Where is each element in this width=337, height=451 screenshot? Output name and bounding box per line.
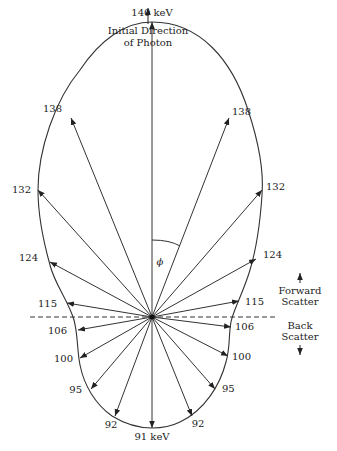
energy-envelope-curve <box>38 22 262 428</box>
scatter-arrow <box>71 118 152 317</box>
scatter-arrow <box>152 317 192 416</box>
phi-angle-arc <box>152 240 180 246</box>
scatter-arrow <box>152 317 215 389</box>
energy-label: 132 <box>12 184 31 195</box>
energy-label: 138 <box>232 106 251 117</box>
title-line1: Initial Direction <box>108 25 189 36</box>
scatter-arrow <box>152 317 231 327</box>
energy-label: 115 <box>38 298 57 309</box>
energy-label: 115 <box>245 296 264 307</box>
scatter-arrow <box>91 317 152 389</box>
energy-label: 106 <box>235 321 254 332</box>
energy-label: 132 <box>266 181 285 192</box>
energy-label: 124 <box>19 252 38 263</box>
energy-label: 106 <box>48 325 67 336</box>
energy-label: 91 keV <box>134 431 170 442</box>
compton-scatter-diagram: ϕ 140 keV1381381321321241241151151061061… <box>0 0 337 451</box>
energy-label: 124 <box>263 249 282 260</box>
scatter-origin <box>150 315 155 320</box>
energy-label: 100 <box>232 351 251 362</box>
scatter-arrow <box>152 118 229 317</box>
energy-label: 95 <box>69 384 82 395</box>
forward-label-line2: Scatter <box>281 296 318 307</box>
forward-label-line1: Forward <box>279 285 322 296</box>
scatter-arrow <box>152 259 256 317</box>
back-label-line1: Back <box>288 320 314 331</box>
energy-label: 92 <box>105 419 118 430</box>
energy-label: 138 <box>43 103 62 114</box>
scatter-arrow <box>115 317 152 416</box>
phi-symbol: ϕ <box>157 256 164 267</box>
back-label-line2: Scatter <box>281 331 318 342</box>
scatter-arrow <box>152 317 228 356</box>
scatter-arrows: 140 keV138138132132124124115115106106100… <box>12 7 285 442</box>
energy-label: 100 <box>54 353 73 364</box>
energy-label: 95 <box>222 383 235 394</box>
energy-label: 140 keV <box>131 7 173 18</box>
scatter-arrow <box>152 301 239 317</box>
energy-label: 92 <box>192 418 205 429</box>
title-line2: of Photon <box>124 37 173 48</box>
